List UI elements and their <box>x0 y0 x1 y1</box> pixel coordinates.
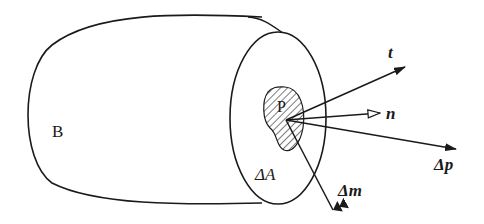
label-point: P <box>277 98 286 115</box>
body-outline <box>28 15 262 204</box>
label-area: ΔA <box>254 165 276 184</box>
stress-diagram: B P ΔA t n Δp Δm <box>0 0 484 224</box>
label-body: B <box>52 122 63 141</box>
label-traction: t <box>388 43 394 62</box>
label-moment: Δm <box>337 181 362 200</box>
body-top-edge <box>248 17 283 33</box>
label-normal: n <box>386 104 395 123</box>
label-force: Δp <box>433 155 453 174</box>
